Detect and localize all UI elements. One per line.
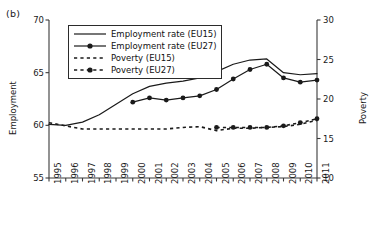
legend-marker-3 xyxy=(87,67,92,72)
legend-label: Employment rate (EU15) xyxy=(111,29,217,39)
legend-label: Employment rate (EU27) xyxy=(111,41,217,51)
chart-figure: (b) Employment Poverty 55606570 10152025… xyxy=(0,0,372,229)
legend-label: Poverty (EU27) xyxy=(111,65,175,75)
legend-label: Poverty (EU15) xyxy=(111,53,175,63)
legend-marker-1 xyxy=(87,43,92,48)
